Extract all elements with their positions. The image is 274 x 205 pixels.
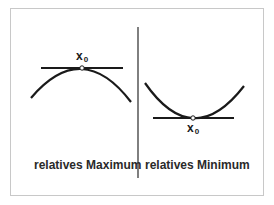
min-caption: relatives Minimum: [145, 158, 250, 172]
extrema-diagram: [0, 0, 274, 205]
min-curve: [145, 83, 244, 118]
max-point-label: x0: [76, 49, 88, 64]
min-point: [191, 116, 195, 120]
max-point: [80, 66, 84, 70]
max-caption: relatives Maximum: [34, 158, 141, 172]
max-curve: [31, 69, 131, 102]
min-point-label: x0: [187, 121, 199, 136]
